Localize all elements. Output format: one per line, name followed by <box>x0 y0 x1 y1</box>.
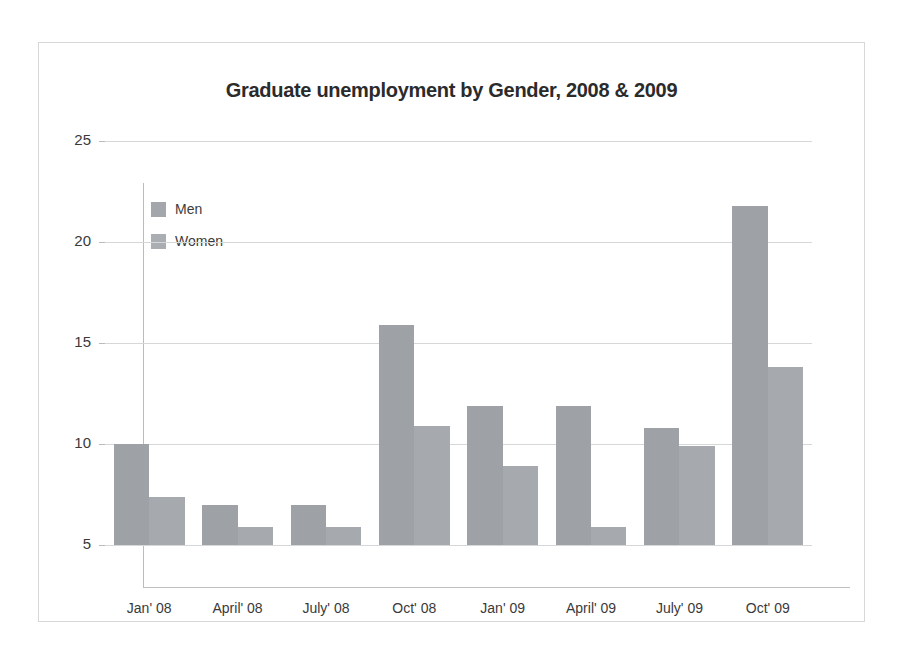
bar-men-3 <box>379 325 414 545</box>
bar-women-3 <box>414 426 449 545</box>
y-axis-tick-label: 25 <box>45 131 91 148</box>
y-axis-tick-label: 5 <box>45 535 91 552</box>
bar-men-6 <box>644 428 679 545</box>
bar-men-4 <box>467 406 502 545</box>
bar-men-2 <box>291 505 326 545</box>
bar-women-4 <box>503 466 538 545</box>
plot-area <box>105 141 812 545</box>
bar-men-7 <box>732 206 767 545</box>
y-axis-tick-label: 15 <box>45 333 91 350</box>
y-axis-tick-label: 20 <box>45 232 91 249</box>
chart-title: Graduate unemployment by Gender, 2008 & … <box>39 79 864 102</box>
bar-men-0 <box>114 444 149 545</box>
bar-men-5 <box>556 406 591 545</box>
gridline <box>105 545 812 546</box>
y-axis-tick-label: 10 <box>45 434 91 451</box>
chart-frame: Graduate unemployment by Gender, 2008 & … <box>38 42 865 622</box>
y-axis-tick-mark <box>99 545 105 546</box>
bar-women-1 <box>238 527 273 545</box>
bar-women-5 <box>591 527 626 545</box>
bar-women-2 <box>326 527 361 545</box>
bar-women-7 <box>768 367 803 545</box>
bar-women-6 <box>679 446 714 545</box>
x-axis-line <box>143 587 850 588</box>
bar-men-1 <box>202 505 237 545</box>
x-axis-tick-label: Oct' 09 <box>708 600 828 616</box>
bar-women-0 <box>149 497 184 545</box>
